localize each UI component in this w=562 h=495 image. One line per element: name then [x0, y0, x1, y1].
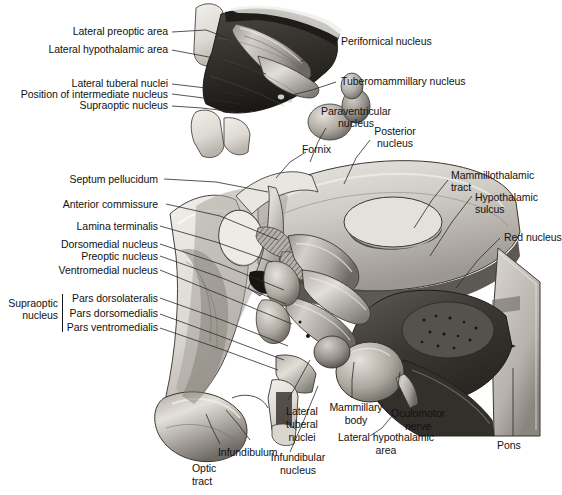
label-hypothalamic-sulcus-line1: Hypothalamic — [475, 192, 538, 204]
label-lateral-tuberal-nuclei-line3: nuclei — [272, 432, 332, 444]
label-pars-ventromedialis: Pars ventromedialis — [0, 322, 158, 334]
label-fornix: Fornix — [302, 144, 331, 156]
label-septum-pellucidum: Septum pellucidum — [0, 174, 158, 186]
label-oculomotor-nerve-line1: Oculomotor — [381, 408, 455, 420]
label-posterior-nucleus-line1: Posterior — [362, 126, 428, 138]
label-anterior-commissure: Anterior commissure — [0, 199, 158, 211]
label-lateral-hypothalamic-area-top: Lateral hypothalamic area — [0, 44, 168, 56]
label-perifornical-nucleus: Perifornical nucleus — [341, 36, 432, 48]
label-infundibular-nucleus-line2: nucleus — [258, 465, 338, 477]
label-optic-tract-line2: tract — [192, 476, 212, 488]
label-optic-tract-line1: Optic — [192, 463, 216, 475]
label-lamina-terminalis: Lamina terminalis — [0, 221, 158, 233]
label-paraventricular-nucleus-line1: Paraventricular — [316, 106, 396, 118]
label-dorsomedial-nucleus: Dorsomedial nucleus — [0, 239, 158, 251]
label-supraoptic-nucleus-top: Supraoptic nucleus — [0, 100, 168, 112]
label-red-nucleus: Red nucleus — [504, 232, 562, 244]
label-lateral-hypothalamic-area-line1: Lateral hypothalamic — [325, 432, 447, 444]
label-lateral-hypothalamic-area-line2: area — [325, 445, 447, 457]
label-posterior-nucleus-line2: nucleus — [362, 138, 428, 150]
label-pars-dorsomedialis: Pars dorsomedialis — [0, 308, 158, 320]
label-tuberomammillary-nucleus: Tuberomammillary nucleus — [341, 76, 465, 88]
anatomical-figure: Lateral preoptic area Lateral hypothalam… — [0, 0, 562, 495]
label-infundibular-nucleus-line1: Infundibular — [258, 452, 338, 464]
label-pons: Pons — [497, 440, 521, 452]
label-mammillothalamic-tract-line1: Mammillothalamic — [451, 170, 534, 182]
label-mammillothalamic-tract-line2: tract — [451, 182, 471, 194]
label-ventromedial-nucleus: Ventromedial nucleus — [0, 265, 158, 277]
label-hypothalamic-sulcus-line2: sulcus — [475, 204, 504, 216]
label-lateral-preoptic-area: Lateral preoptic area — [0, 26, 168, 38]
label-pars-dorsolateralis: Pars dorsolateralis — [0, 293, 158, 305]
label-preoptic-nucleus: Preoptic nucleus — [0, 251, 158, 263]
